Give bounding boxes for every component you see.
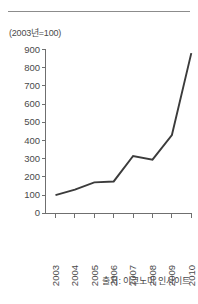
ytick-label-100: 100	[24, 189, 40, 200]
ytick-label-800: 800	[24, 62, 40, 73]
ytick-label-200: 200	[24, 171, 40, 182]
x-axis	[46, 214, 193, 219]
ytick-label-700: 700	[24, 80, 40, 91]
line-chart: 900 800 700 600 500 400 300 200 100 0	[0, 0, 198, 304]
chart-container: 900 800 700 600 500 400 300 200 100 0	[0, 0, 198, 304]
ytick-label-900: 900	[24, 44, 40, 55]
source-note: 출처: 이코노미 인사이트	[0, 274, 190, 287]
ytick-label-600: 600	[24, 98, 40, 109]
data-series-line	[56, 53, 192, 195]
ytick-label-400: 400	[24, 135, 40, 146]
ytick-label-300: 300	[24, 153, 40, 164]
ytick-label-0: 0	[35, 207, 40, 218]
y-axis	[42, 49, 46, 214]
ytick-label-500: 500	[24, 116, 40, 127]
y-axis-tick-labels: 900 800 700 600 500 400 300 200 100 0	[24, 44, 40, 219]
